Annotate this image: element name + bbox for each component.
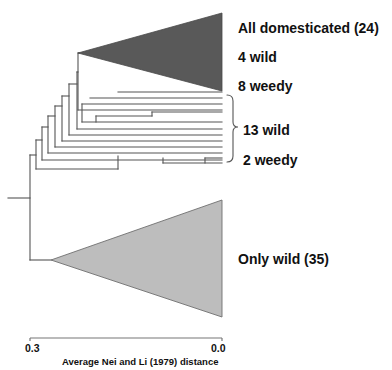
distance-axis <box>30 338 222 341</box>
two-weedy-label: 2 weedy <box>243 153 297 167</box>
all-domesticated-label: All domesticated (24) <box>238 21 379 35</box>
thirteen-wild-label: 13 wild <box>243 123 290 137</box>
only-wild-label: Only wild (35) <box>238 252 329 266</box>
four-wild-label: 4 wild <box>238 50 277 64</box>
axis-caption: Average Nei and Li (1979) distance <box>62 357 218 367</box>
axis-tick-label-left: 0.3 <box>25 343 40 354</box>
eight-weedy-label: 8 weedy <box>238 79 292 93</box>
tree-svg-canvas <box>0 0 392 370</box>
grade-brace <box>227 95 238 162</box>
all-domesticated-triangle <box>78 13 222 91</box>
axis-tick-label-right: 0.0 <box>211 343 226 354</box>
only-wild-triangle <box>51 200 222 317</box>
phylogenetic-tree-figure: All domesticated (24) 4 wild 8 weedy 13 … <box>0 0 392 370</box>
